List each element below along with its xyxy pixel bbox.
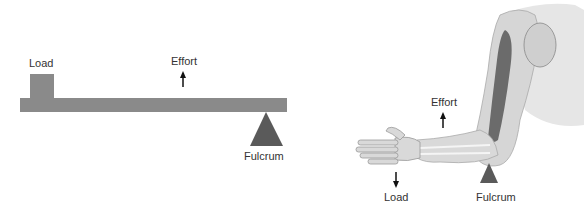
shoulder-bone bbox=[524, 23, 556, 67]
arm-fulcrum-label: Fulcrum bbox=[476, 191, 516, 203]
arm-graphic bbox=[0, 0, 584, 213]
arm-load-arrow-down-icon bbox=[393, 172, 399, 188]
arm-load-label: Load bbox=[384, 191, 408, 203]
arm-effort-arrow-up-icon bbox=[440, 112, 446, 128]
hand bbox=[356, 127, 420, 164]
arm-effort-label: Effort bbox=[431, 96, 457, 108]
